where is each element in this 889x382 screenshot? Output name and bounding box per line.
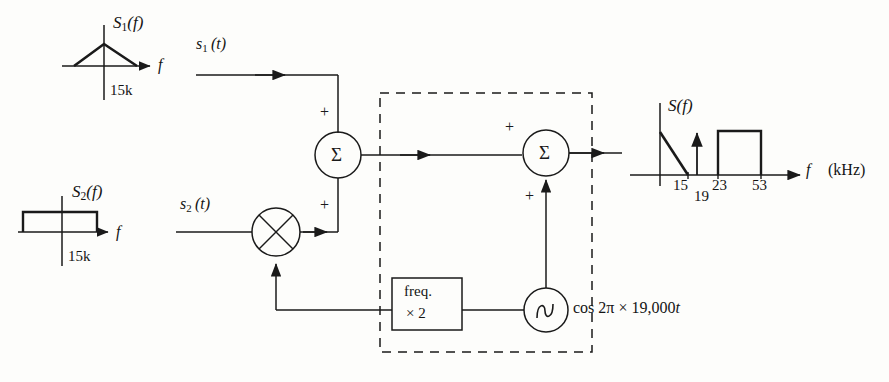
s1-spectrum-triangle	[74, 44, 137, 66]
diagram-canvas: S1(f) f 15k S2(f) f 15k s1 (t) s2 (t) Σ …	[0, 0, 889, 382]
freq-doubler-label-line1: freq.	[404, 284, 432, 299]
s2-axis-label: f	[116, 224, 120, 240]
summer2-sigma-symbol: Σ	[539, 142, 550, 164]
s1-bandwidth-label: 15k	[110, 83, 133, 98]
output-tick-label-15: 15	[673, 178, 688, 193]
output-axis-label: f	[806, 162, 810, 178]
multiplier-output-path	[300, 178, 338, 232]
s2-spectrum-axes	[18, 196, 108, 266]
oscillator-label: cos 2π × 19,000t	[573, 300, 680, 316]
output-tick-label-19: 19	[694, 189, 709, 204]
s1-signal-path	[196, 75, 338, 133]
summer1-sigma-symbol: Σ	[331, 144, 342, 166]
carrier-to-multiplier-path	[276, 264, 392, 310]
output-spectrum-axes	[630, 103, 800, 186]
output-spectrum-label: S(f)	[668, 97, 693, 114]
output-spectrum-subcarrier-rect	[718, 131, 761, 175]
output-axis-units: (kHz)	[828, 162, 865, 178]
output-tick-label-53: 53	[752, 178, 767, 193]
multiplier-symbol	[252, 208, 300, 256]
output-spectrum-baseband-slope	[660, 132, 688, 175]
s2-signal-label: s2 (t)	[180, 196, 210, 214]
s1-spectrum-label: S1(f)	[113, 14, 143, 34]
s1-axis-label: f	[158, 57, 162, 73]
s2-bandwidth-label: 15k	[68, 249, 91, 264]
s1-spectrum-axes	[62, 25, 150, 100]
s2-spectrum-rect	[23, 212, 97, 232]
s1-signal-label: s1 (t)	[196, 36, 226, 54]
s2-spectrum-label: S2(f)	[72, 183, 102, 203]
output-tick-label-23: 23	[712, 178, 727, 193]
summer1-plus-top: +	[320, 103, 329, 121]
summer1-plus-bottom: +	[320, 196, 329, 214]
freq-doubler-label-line2: × 2	[406, 306, 426, 321]
summer2-plus-left: +	[505, 118, 514, 136]
oscillator-symbol	[524, 288, 568, 332]
summer2-plus-bottom: +	[525, 187, 534, 205]
